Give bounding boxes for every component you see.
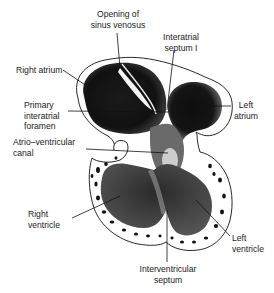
- label-interventricular-septum: Interventricular septum: [132, 264, 204, 285]
- label-right-ventricle: Right ventricle: [28, 209, 60, 230]
- right-atrium: [83, 63, 166, 134]
- label-av-canal: Atrio–ventricular canal: [13, 137, 75, 158]
- label-opening-sinus-venosus: Opening of sinus venosus: [88, 9, 148, 30]
- label-interatrial-septum: Interatrial septum I: [158, 32, 204, 53]
- label-primary-interatrial-foramen: Primary interatrial foramen: [24, 100, 59, 132]
- label-left-ventricle: Left ventricle: [232, 233, 264, 254]
- ventricle-mass: [101, 164, 212, 236]
- label-left-atrium: Left atrium: [228, 100, 264, 121]
- label-right-atrium: Right atrium: [16, 65, 62, 76]
